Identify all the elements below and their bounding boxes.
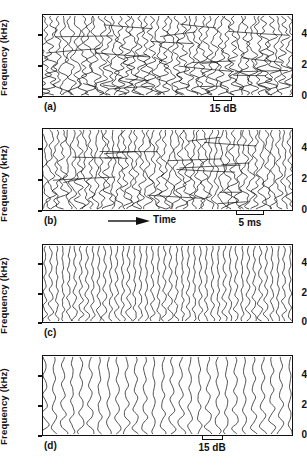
panel-b-plot [42,128,293,211]
panel-a-ytick-2: 2 [293,60,307,70]
figure-multi-panel-spectrogram: Frequency (kHz) 0 2 4 (a) 15 dB Frequenc… [0,0,307,470]
panel-b-scalebar-label: 5 ms [220,217,280,228]
panel-a-ylabel: Frequency (kHz) [0,19,9,96]
panel-b-ytick-0: 0 [293,205,307,215]
panel-a-plot [42,14,293,97]
panel-c-label: (c) [44,327,56,338]
time-arrow-icon [108,216,150,226]
panel-b: Frequency (kHz) 0 2 4 (b) Time 5 ms [0,126,307,246]
panel-c: Frequency (kHz) 0 2 4 (c) [0,240,307,350]
panel-c-ytick-4: 4 [293,258,307,268]
panel-c-plot [42,244,293,323]
panel-c-ylabel: Frequency (kHz) [0,257,9,334]
panel-d-ytick-4: 4 [293,370,307,380]
panel-b-ylabel: Frequency (kHz) [0,145,9,222]
panel-a-ytick-4: 4 [293,29,307,39]
panel-a-scalebar-label: 15 dB [193,103,253,114]
panel-b-scalebar-bracket [236,210,264,215]
panel-a-label: (a) [44,101,56,112]
panel-d: Frequency (kHz) 0 2 4 (d) 15 dB [0,351,307,470]
panel-d-ytick-0: 0 [293,430,307,440]
panel-d-plot [42,355,293,436]
panel-b-ytick-4: 4 [293,143,307,153]
panel-c-ytick-0: 0 [293,317,307,327]
panel-b-label: (b) [44,215,57,226]
panel-a-ytick-0: 0 [293,91,307,101]
panel-a: Frequency (kHz) 0 2 4 (a) 15 dB [0,0,307,118]
panel-d-scalebar-label: 15 dB [182,442,242,453]
panel-c-ytick-2: 2 [293,288,307,298]
panel-d-label: (d) [44,440,57,451]
panel-d-ytick-2: 2 [293,400,307,410]
panel-a-scalebar-bracket [213,96,232,101]
panel-d-ylabel: Frequency (kHz) [0,368,9,445]
panel-b-ytick-2: 2 [293,174,307,184]
time-axis-label: Time [153,214,176,225]
panel-d-scalebar-bracket [202,435,223,440]
